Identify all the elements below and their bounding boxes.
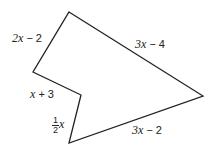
label-notch-upper-side: x + 3 — [30, 88, 54, 100]
label-notch-lower-side: 1 2 x — [52, 116, 64, 135]
pentagon-figure — [0, 0, 214, 152]
label-top-left-side: 2x − 2 — [12, 32, 42, 44]
label-bottom-right-side: 3x − 2 — [132, 124, 162, 136]
fraction-one-half: 1 2 — [52, 116, 59, 135]
label-top-right-side: 3x − 4 — [135, 38, 165, 50]
